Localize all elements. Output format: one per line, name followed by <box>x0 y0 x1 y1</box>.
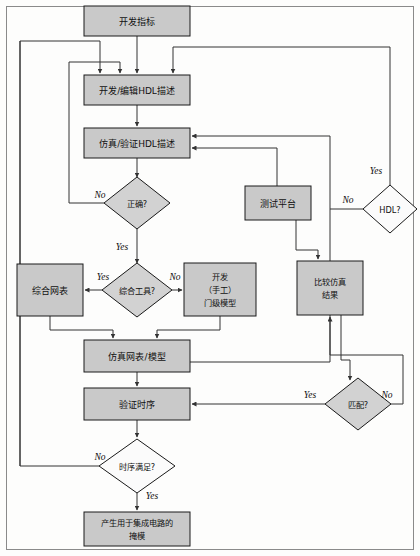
edge-label-hdl-no: No <box>341 195 353 205</box>
node-synthesis-tool-label: 综合工具? <box>119 286 155 296</box>
flowchart-svg: 开发指标 开发/编辑HDL描述 仿真/验证HDL描述 正确? 测试平台 HDL? <box>0 0 420 556</box>
node-compare-results[interactable]: 比较仿真 结果 <box>297 261 363 315</box>
node-gate-level-model-line3: 门级模型 <box>204 298 236 308</box>
node-gate-level-model[interactable]: 开发 （手工） 门级模型 <box>184 263 256 316</box>
edge-label-timing-no: No <box>93 452 105 462</box>
node-sim-hdl-label: 仿真/验证HDL描述 <box>99 138 175 149</box>
node-synthesis-tool-decision[interactable]: 综合工具? <box>102 263 172 317</box>
node-compare-results-line1: 比较仿真 <box>314 277 346 287</box>
edge-label-timing-yes: Yes <box>146 491 159 501</box>
connector-testbench-to-simhdl <box>192 148 277 186</box>
node-mask-output-line2: 掩模 <box>129 531 145 541</box>
node-correct-label: 正确? <box>127 199 147 209</box>
connector-hdl-yes-loop <box>173 47 390 185</box>
node-mask-output-line1: 产生用于集成电路的 <box>101 518 173 528</box>
node-edit-hdl[interactable]: 开发/编辑HDL描述 <box>84 75 190 105</box>
node-spec-label: 开发指标 <box>119 16 155 27</box>
node-match-decision[interactable]: 匹配? <box>325 378 391 430</box>
node-gate-level-model-line2: （手工） <box>204 285 236 295</box>
node-synthesis-netlist-label: 综合网表 <box>32 285 68 296</box>
connector-simnetlist-to-compare <box>190 317 330 362</box>
node-spec[interactable]: 开发指标 <box>84 6 190 36</box>
edge-label-match-yes: Yes <box>304 390 317 400</box>
node-compare-results-line2: 结果 <box>322 290 338 300</box>
node-verify-timing[interactable]: 验证时序 <box>84 388 190 420</box>
node-match-label: 匹配? <box>348 400 368 410</box>
node-testbench-label: 测试平台 <box>260 198 296 209</box>
edge-label-hdl-yes: Yes <box>370 166 383 176</box>
edge-label-syntool-yes: Yes <box>97 272 110 282</box>
connector-synnetlist-to-simnetlist <box>50 316 113 338</box>
connector-testbench-to-compare <box>296 220 318 259</box>
connector-gatemodel-to-simnetlist <box>157 316 220 338</box>
node-synthesis-netlist[interactable]: 综合网表 <box>17 264 83 316</box>
node-timing-label: 时序满足? <box>119 462 155 472</box>
node-sim-netlist-label: 仿真网表/模型 <box>108 351 165 362</box>
connector-compare-to-match <box>341 315 350 380</box>
edge-label-match-no: No <box>380 390 392 400</box>
edge-label-correct-yes: Yes <box>116 242 129 252</box>
node-timing-decision[interactable]: 时序满足? <box>99 439 175 493</box>
node-testbench[interactable]: 测试平台 <box>245 186 311 220</box>
node-correct-decision[interactable]: 正确? <box>104 177 170 229</box>
edge-label-correct-no: No <box>93 190 105 200</box>
edge-label-syntool-no: No <box>168 272 180 282</box>
connector-match-no-to-simhdl <box>192 136 330 355</box>
node-edit-hdl-label: 开发/编辑HDL描述 <box>99 85 175 96</box>
node-hdl-decision[interactable]: HDL? <box>363 185 417 233</box>
node-mask-output[interactable]: 产生用于集成电路的 掩模 <box>84 512 190 546</box>
node-verify-timing-label: 验证时序 <box>119 399 155 410</box>
node-sim-netlist[interactable]: 仿真网表/模型 <box>84 340 190 372</box>
node-sim-hdl[interactable]: 仿真/验证HDL描述 <box>84 128 190 158</box>
node-gate-level-model-line1: 开发 <box>212 272 228 282</box>
flowchart-canvas: 开发指标 开发/编辑HDL描述 仿真/验证HDL描述 正确? 测试平台 HDL? <box>0 0 420 556</box>
node-hdl-label: HDL? <box>379 205 400 215</box>
